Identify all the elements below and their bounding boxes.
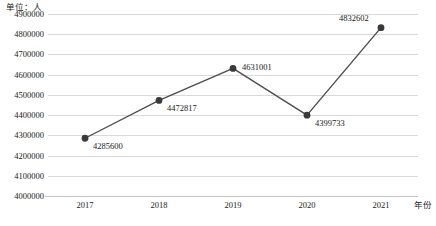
y-axis-tick-label: 4500000: [14, 90, 44, 99]
y-axis-tick-label: 4400000: [14, 111, 44, 120]
y-axis-tick-label: 4800000: [14, 30, 44, 39]
data-point-marker[interactable]: [378, 24, 385, 31]
y-axis-tick-label: 4300000: [14, 131, 44, 140]
data-point-label: 4472817: [167, 104, 197, 113]
line-chart: 单位：人 49000004800000470000046000004500000…: [0, 0, 436, 226]
y-axis-tick-label: 4600000: [14, 70, 44, 79]
y-axis-tick-label: 4000000: [14, 192, 44, 201]
data-point-label: 4285600: [93, 142, 123, 151]
x-axis-title: 年份: [414, 200, 432, 211]
data-point-label: 4832602: [339, 14, 369, 23]
data-point-marker[interactable]: [304, 112, 311, 119]
y-axis-tick-label: 4200000: [14, 151, 44, 160]
x-axis-tick-labels: 20172018201920202021: [48, 200, 418, 216]
data-point-label: 4399733: [315, 119, 345, 128]
data-point-marker[interactable]: [156, 97, 163, 104]
x-axis-tick-label: 2020: [299, 200, 316, 211]
x-axis-tick-label: 2019: [225, 200, 242, 211]
data-point-marker[interactable]: [82, 135, 89, 142]
x-axis-line: [45, 196, 418, 197]
plot-area: 42856004472817463100143997334832602: [48, 14, 418, 196]
data-point-label: 4631001: [242, 63, 272, 72]
x-axis-tick-label: 2018: [151, 200, 168, 211]
y-axis-tick-label: 4900000: [14, 10, 44, 19]
y-axis-tick-label: 4100000: [14, 171, 44, 180]
x-axis-tick-label: 2021: [373, 200, 390, 211]
x-axis-tick-label: 2017: [77, 200, 94, 211]
y-axis-tick-labels: 4900000480000047000004600000450000044000…: [0, 14, 46, 196]
data-point-marker[interactable]: [230, 65, 237, 72]
series-line-group: [48, 14, 418, 196]
y-axis-tick-label: 4700000: [14, 50, 44, 59]
